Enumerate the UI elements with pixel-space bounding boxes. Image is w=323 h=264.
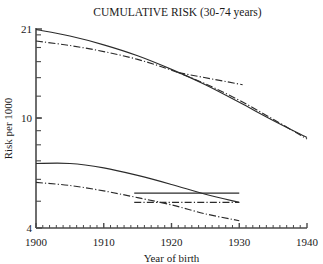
y-tick-label-10: 10 [21, 112, 33, 124]
series-upper-solid [36, 30, 307, 138]
series-lower-solid [36, 163, 239, 202]
x-tick-label-1920: 1920 [161, 236, 184, 248]
series-upper-flat-dashdot [178, 73, 242, 85]
series-upper-dashdot [36, 41, 307, 139]
x-axis-label: Year of birth [144, 252, 200, 264]
x-tick-label-1900: 1900 [25, 236, 48, 248]
y-tick-label-4: 4 [27, 222, 33, 234]
y-tick-label-21: 21 [21, 23, 32, 35]
chart-figure: CUMULATIVE RISK (30-74 years)19001910192… [0, 0, 323, 264]
chart-canvas: CUMULATIVE RISK (30-74 years)19001910192… [0, 0, 323, 264]
x-tick-label-1930: 1930 [228, 236, 251, 248]
x-tick-label-1910: 1910 [93, 236, 116, 248]
series-lower-dashdot [36, 182, 239, 220]
x-tick-label-1940: 1940 [296, 236, 319, 248]
chart-title: CUMULATIVE RISK (30-74 years) [93, 6, 261, 19]
y-axis-label: Risk per 1000 [2, 97, 14, 159]
